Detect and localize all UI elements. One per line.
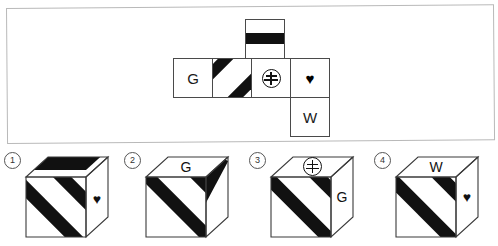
net-face-top-band	[245, 19, 285, 59]
symbol-bar-upper	[266, 75, 277, 77]
option-1-right-face-heart: ♥	[88, 191, 106, 207]
options-row: 1	[0, 146, 498, 246]
symbol-bar-lower	[264, 79, 278, 81]
net-face-symbol	[251, 58, 291, 98]
option-4-number: 4	[374, 152, 391, 169]
option-3-right-face-label: G	[333, 189, 351, 205]
symbol-bar-upper	[307, 164, 318, 166]
option-3-number: 3	[249, 152, 266, 169]
symbol-bar-lower	[306, 168, 320, 170]
net-face-symbol-inner	[252, 59, 290, 97]
net-face-g: G	[173, 58, 213, 98]
net-face-stripes	[212, 58, 252, 98]
net-face-w-label: W	[291, 98, 329, 136]
figure-root: G ♥ W	[0, 0, 498, 246]
option-4-right-face-heart: ♥	[458, 189, 476, 205]
option-2-cube: G	[144, 155, 232, 241]
option-3-cube: G	[269, 155, 357, 241]
option-1-number: 1	[4, 152, 21, 169]
net-face-w: W	[290, 97, 330, 137]
option-1[interactable]: 1	[0, 146, 125, 246]
option-4-top-face-label: W	[427, 159, 445, 175]
option-1-cube: ♥	[24, 155, 112, 241]
option-2-number: 2	[124, 152, 141, 169]
heart-icon: ♥	[291, 59, 329, 97]
symbol-stem	[270, 72, 272, 85]
cube-net: G ♥ W	[0, 0, 498, 150]
option-3[interactable]: 3	[245, 146, 370, 246]
circled-yen-symbol-icon	[262, 69, 281, 88]
net-face-heart: ♥	[290, 58, 330, 98]
option-4-cube: W ♥	[394, 155, 482, 241]
symbol-stem	[312, 160, 314, 173]
option-4[interactable]: 4	[370, 146, 495, 246]
option-2-top-face-label: G	[177, 159, 195, 175]
option-2[interactable]: 2	[120, 146, 245, 246]
net-face-g-label: G	[174, 59, 212, 97]
black-band	[246, 33, 284, 44]
